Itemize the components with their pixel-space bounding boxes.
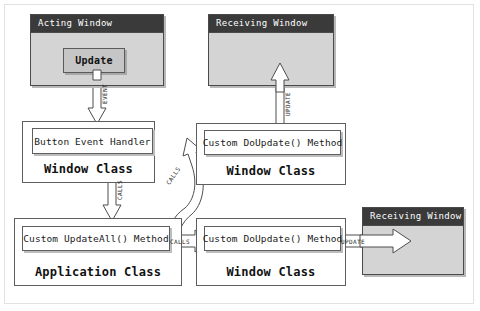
update-top-label: UPDATE [284,92,291,116]
update-button[interactable]: Update [63,48,125,73]
receiving-window-bottom[interactable]: Receiving Window [362,207,464,275]
window-class-left-label: Window Class [23,162,154,176]
receiving-window-top-titlebar: Receiving Window [209,15,333,33]
window-class-bottom-right-label: Window Class [197,265,345,279]
receiving-window-bottom-titlebar: Receiving Window [363,208,463,226]
receiving-window-bottom-body [363,226,463,274]
calls-app-to-top-right-label: CALLS [165,165,182,186]
calls-app-to-bottom-right-label: CALLS [170,238,190,245]
diagram-canvas: Acting Window Update Receiving Window Re… [0,0,480,311]
event-label: EVENT [101,84,108,104]
acting-window-body: Update [31,33,163,85]
calls-handler-to-app-label: CALLS [116,180,123,200]
custom-updateall-method[interactable]: Custom UpdateAll() Method [22,226,170,251]
update-bottom-label: UPDATE [341,238,365,245]
custom-doupdate-method-bottom-right[interactable]: Custom DoUpdate() Method [204,226,341,251]
button-event-handler-method[interactable]: Button Event Handler [32,128,153,154]
receiving-window-top-body [209,33,333,85]
receiving-window-top[interactable]: Receiving Window [208,14,334,86]
custom-doupdate-method-top-right[interactable]: Custom DoUpdate() Method [204,130,341,155]
acting-window-titlebar: Acting Window [31,15,163,33]
window-class-top-right-label: Window Class [197,164,345,178]
acting-window[interactable]: Acting Window Update [30,14,164,86]
application-class-label: Application Class [15,265,181,279]
